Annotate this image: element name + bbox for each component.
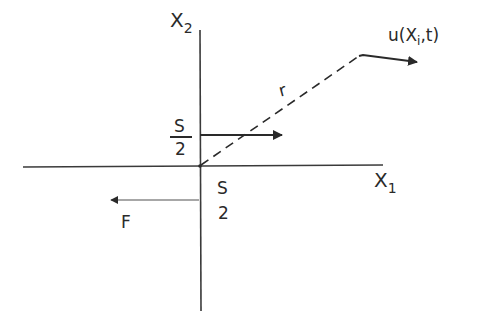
upper-slip-numerator: S (174, 118, 185, 135)
x2-base: X (170, 8, 184, 32)
lower-slip-numerator: S (217, 180, 228, 197)
displacement-subscript: i (417, 34, 420, 48)
x1-base: X (374, 168, 388, 192)
x1-axis-line (23, 165, 383, 167)
x1-axis-label: X1 (374, 170, 397, 190)
displacement-prefix: u(X (388, 25, 417, 45)
upper-slip-denominator: 2 (175, 141, 186, 158)
diagram-canvas (0, 0, 483, 323)
displacement-arrow (359, 55, 417, 62)
lower-slip-denominator: 2 (218, 205, 229, 222)
x2-axis-label: X2 (170, 10, 193, 30)
x2-axis-line (200, 30, 201, 311)
x1-subscript: 1 (388, 180, 397, 196)
upper-slip-fraction-bar (170, 136, 192, 138)
x2-subscript: 2 (184, 20, 193, 36)
force-label: F (121, 214, 131, 231)
displacement-label: u(Xi,t) (388, 27, 439, 44)
displacement-suffix: ,t) (420, 25, 439, 45)
radius-dashed-line (201, 56, 359, 165)
